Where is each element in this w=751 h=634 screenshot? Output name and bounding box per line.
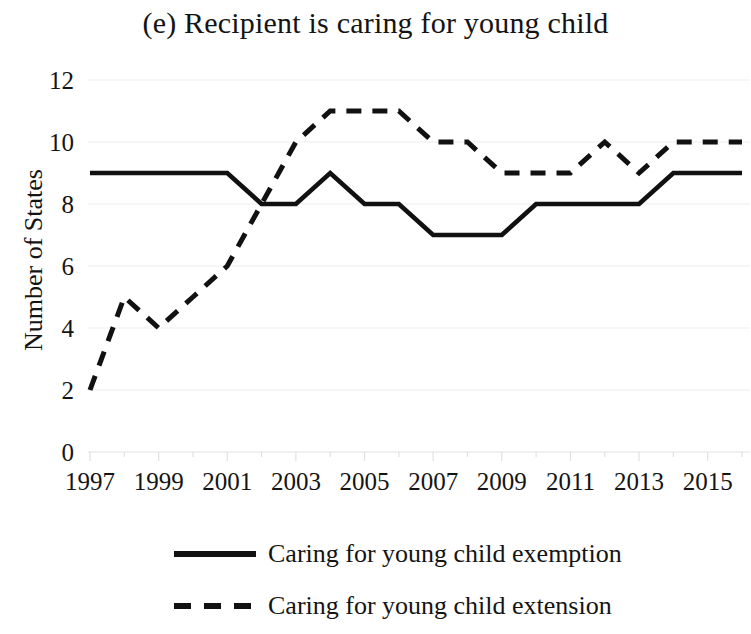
legend-item-exemption: Caring for young child exemption [0, 528, 751, 580]
x-tick-label: 2007 [408, 468, 458, 495]
data-series-group [90, 111, 742, 390]
x-tick-label: 2015 [683, 468, 733, 495]
y-tick-label: 8 [62, 191, 75, 218]
y-tick-label: 10 [49, 129, 74, 156]
x-tick-label: 2005 [340, 468, 390, 495]
x-tick-label: 2001 [202, 468, 252, 495]
x-tick-labels-group: 1997199920012003200520072009201120132015 [65, 468, 733, 495]
legend-swatch-dashed-icon [172, 595, 258, 617]
chart-legend: Caring for young child exemption Caring … [0, 528, 751, 632]
x-tick-label: 2013 [614, 468, 664, 495]
chart-figure: (e) Recipient is caring for young child … [0, 0, 751, 634]
plot-area: 024681012 199719992001200320052007200920… [0, 0, 751, 520]
x-tick-label: 2003 [271, 468, 321, 495]
y-tick-label: 2 [62, 377, 75, 404]
x-tick-label: 2011 [546, 468, 595, 495]
x-tick-label: 1997 [65, 468, 115, 495]
y-tick-label: 0 [62, 439, 75, 466]
legend-item-extension: Caring for young child extension [0, 580, 751, 632]
x-tickmarks-group [90, 452, 742, 461]
gridlines-group [88, 80, 750, 452]
y-tick-label: 6 [62, 253, 75, 280]
legend-label-exemption: Caring for young child exemption [268, 539, 622, 569]
x-tick-label: 2009 [477, 468, 527, 495]
y-tick-label: 4 [62, 315, 75, 342]
y-tick-labels-group: 024681012 [49, 67, 75, 466]
legend-label-extension: Caring for young child extension [268, 591, 612, 621]
y-tick-label: 12 [49, 67, 74, 94]
x-tick-label: 1999 [134, 468, 184, 495]
series-line-extension [90, 111, 742, 390]
legend-swatch-solid-icon [172, 543, 258, 565]
